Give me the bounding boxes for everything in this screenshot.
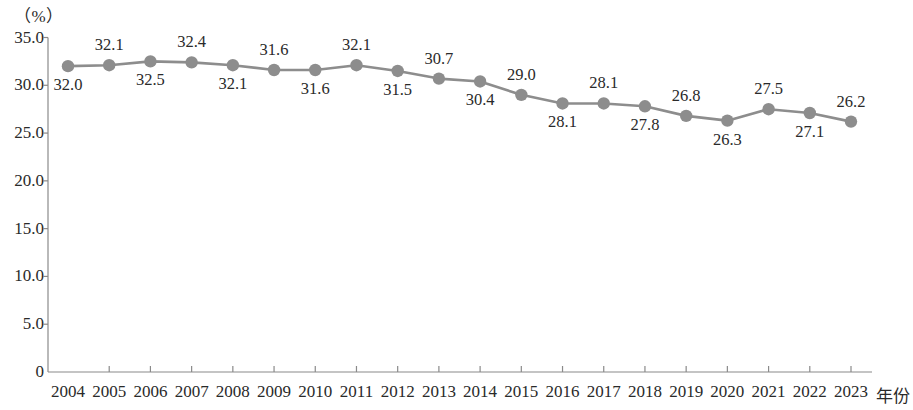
data-point-label: 32.1	[95, 35, 124, 55]
data-point-marker	[639, 100, 651, 112]
data-point-marker	[680, 110, 692, 122]
data-point-label: 27.1	[795, 122, 824, 142]
x-tick-label: 2013	[422, 382, 456, 402]
x-tick-label: 2011	[340, 382, 373, 402]
data-point-marker	[804, 107, 816, 119]
data-point-marker	[721, 114, 733, 126]
data-point-marker	[598, 97, 610, 109]
data-point-marker	[391, 65, 403, 77]
data-point-label: 28.1	[548, 112, 577, 132]
data-point-marker	[103, 59, 115, 71]
data-point-marker	[515, 89, 527, 101]
x-tick-label: 2014	[463, 382, 497, 402]
data-point-marker	[474, 75, 486, 87]
axes-group	[43, 38, 872, 373]
data-point-label: 30.4	[466, 90, 495, 110]
data-point-label: 31.5	[383, 80, 412, 100]
data-point-label: 32.4	[177, 32, 206, 52]
data-point-label: 27.8	[631, 115, 660, 135]
data-point-label: 30.7	[424, 49, 453, 69]
x-tick-label: 2016	[546, 382, 580, 402]
x-tick-label: 2006	[133, 382, 167, 402]
x-tick-label: 2022	[793, 382, 827, 402]
x-tick-label: 2019	[669, 382, 703, 402]
plot-area	[0, 0, 913, 410]
data-point-label: 32.1	[342, 35, 371, 55]
data-point-label: 28.1	[589, 73, 618, 93]
x-tick-label: 2010	[298, 382, 332, 402]
data-point-marker	[268, 64, 280, 76]
data-point-label: 27.5	[754, 79, 783, 99]
data-point-marker	[309, 64, 321, 76]
x-tick-label: 2020	[710, 382, 744, 402]
data-point-label: 26.8	[672, 86, 701, 106]
data-point-marker	[350, 59, 362, 71]
x-tick-label: 2015	[504, 382, 538, 402]
x-axis-name: 年份	[876, 382, 910, 407]
data-series-line	[68, 61, 851, 121]
line-chart: （%） 05.010.015.020.025.030.035.0 2004200…	[0, 0, 913, 410]
data-point-marker	[62, 60, 74, 72]
x-tick-label: 2004	[51, 382, 85, 402]
x-tick-label: 2008	[216, 382, 250, 402]
data-point-label: 29.0	[507, 65, 536, 85]
data-point-label: 26.3	[713, 130, 742, 150]
x-tick-label: 2018	[628, 382, 662, 402]
series-polyline	[68, 61, 851, 121]
data-point-marker	[144, 55, 156, 67]
x-tick-label: 2023	[834, 382, 868, 402]
data-point-label: 32.1	[218, 74, 247, 94]
x-tick-label: 2007	[175, 382, 209, 402]
data-point-marker	[845, 115, 857, 127]
data-point-marker	[227, 59, 239, 71]
data-point-marker	[556, 97, 568, 109]
data-point-marker	[762, 103, 774, 115]
data-point-marker	[185, 56, 197, 68]
x-tick-label: 2005	[92, 382, 126, 402]
data-point-label: 31.6	[301, 79, 330, 99]
data-point-label: 32.5	[136, 70, 165, 90]
data-point-label: 31.6	[260, 40, 289, 60]
data-point-label: 26.2	[837, 92, 866, 112]
data-point-label: 32.0	[54, 75, 83, 95]
x-tick-label: 2021	[752, 382, 786, 402]
x-tick-label: 2009	[257, 382, 291, 402]
x-tick-label: 2012	[381, 382, 415, 402]
x-tick-label: 2017	[587, 382, 621, 402]
data-point-marker	[433, 72, 445, 84]
